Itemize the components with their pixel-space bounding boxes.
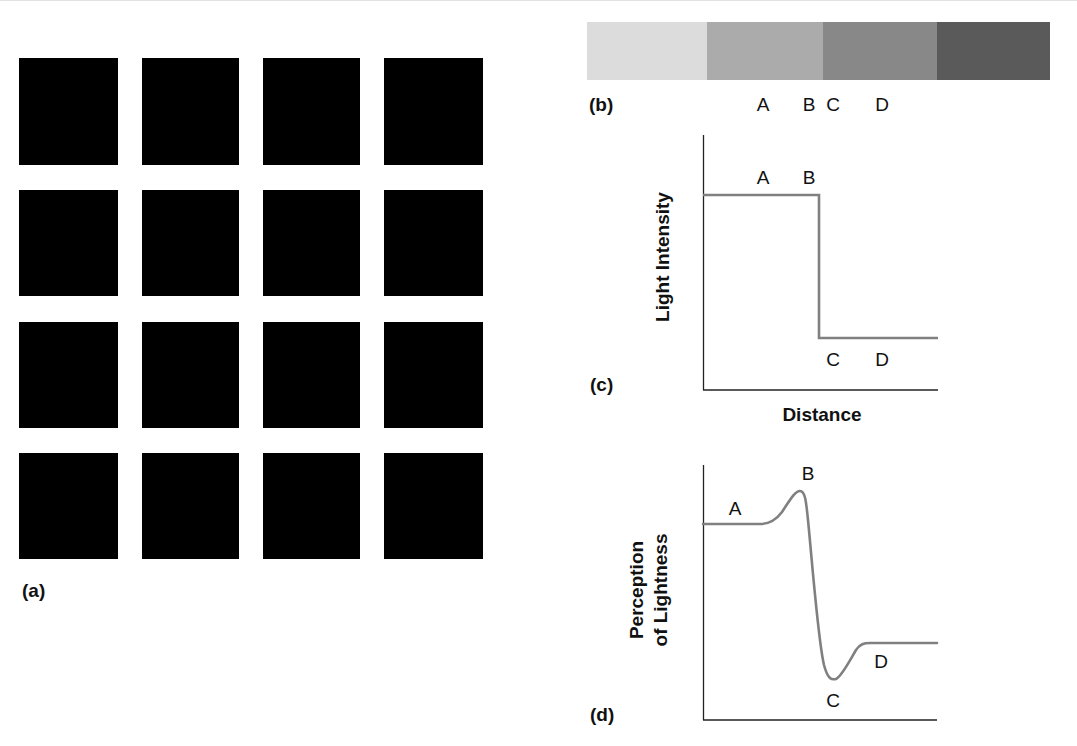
- panel-d-label: (d): [590, 705, 614, 724]
- point-c: C: [826, 691, 840, 710]
- point-b: B: [802, 464, 815, 483]
- perception-curve: [703, 491, 937, 679]
- y-axis-title-line1: Perception: [625, 534, 649, 647]
- y-axis-title: Perception of Lightness: [625, 534, 673, 647]
- y-axis-title-line2: of Lightness: [649, 534, 673, 647]
- point-a: A: [729, 499, 742, 518]
- point-d: D: [874, 652, 888, 671]
- perception-plot: [0, 0, 1077, 746]
